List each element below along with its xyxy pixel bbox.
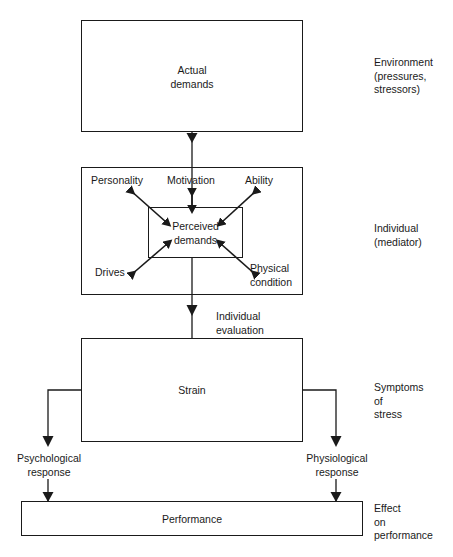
label-effect-on-performance: Effect on performance: [374, 502, 433, 543]
box-actual-demands: Actual demands: [81, 20, 303, 132]
box-perceived-demands-label: Perceived demands: [149, 220, 242, 247]
box-performance: Performance: [21, 501, 363, 536]
box-perceived-demands: Perceived demands: [148, 207, 243, 258]
label-drives: Drives: [95, 266, 125, 280]
label-psychological-response: Psychological response: [4, 452, 94, 479]
box-performance-label: Performance: [22, 513, 362, 527]
diagram-canvas: Actual demands Perceived demands Strain …: [0, 0, 453, 557]
box-strain-label: Strain: [82, 384, 302, 398]
box-actual-demands-label: Actual demands: [82, 64, 302, 91]
arrow-psychological-to-performance: [43, 479, 54, 502]
label-physical-condition: Physical condition: [250, 262, 292, 289]
label-personality: Personality: [91, 174, 143, 188]
arrow-physiological-to-performance: [331, 479, 342, 502]
label-individual-evaluation: Individual evaluation: [216, 310, 264, 337]
label-individual-mediator: Individual (mediator): [374, 222, 422, 249]
label-symptoms-of-stress: Symptoms of stress: [374, 381, 424, 422]
arrow-demands-to-individual: [187, 132, 198, 167]
arrow-strain-to-physiological: [303, 390, 342, 447]
arrow-strain-to-psychological: [43, 390, 82, 447]
label-motivation: Motivation: [167, 174, 215, 188]
label-environment: Environment (pressures, stressors): [374, 56, 433, 97]
box-strain: Strain: [81, 338, 303, 442]
label-ability: Ability: [245, 174, 273, 188]
label-physiological-response: Physiological response: [292, 452, 382, 479]
